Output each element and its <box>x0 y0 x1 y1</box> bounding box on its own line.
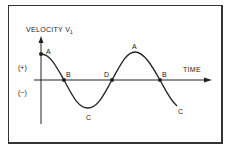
x-axis-arrow-icon <box>204 78 212 83</box>
x-axis-label: TIME <box>183 66 201 73</box>
positive-label: (+) <box>18 64 27 72</box>
point-label-c2: C <box>178 108 183 115</box>
point-a-dot <box>39 52 43 56</box>
velocity-time-diagram: VELOCITY V1 TIME (+) (−) A B C D A B C <box>0 0 233 151</box>
point-label-a: A <box>46 48 51 55</box>
point-label-b: B <box>66 71 71 78</box>
point-label-d: D <box>104 71 109 78</box>
y-axis-arrow-icon <box>39 36 44 43</box>
point-b-dot <box>62 78 66 82</box>
point-d-dot <box>110 78 114 82</box>
negative-label: (−) <box>18 89 27 97</box>
point-label-b2: B <box>162 71 167 78</box>
point-b2-dot <box>158 78 162 82</box>
point-label-c: C <box>86 114 91 121</box>
y-axis-label: VELOCITY V1 <box>26 26 73 35</box>
point-label-a2: A <box>132 43 137 50</box>
